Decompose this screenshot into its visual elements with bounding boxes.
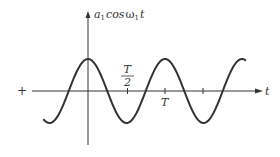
y-axis-label: a1cosω1t	[94, 8, 145, 22]
y-axis-arrow-icon	[86, 11, 91, 18]
half-period-denominator: 2	[123, 76, 131, 89]
half-period-numerator: T	[124, 63, 133, 76]
x-axis-label: t	[265, 85, 270, 98]
cosine-diagram: + a1cosω1t t T 2 T	[0, 0, 280, 157]
origin-marker: +	[17, 84, 27, 98]
period-label: T	[161, 96, 170, 109]
x-axis-arrow-icon	[255, 89, 263, 94]
